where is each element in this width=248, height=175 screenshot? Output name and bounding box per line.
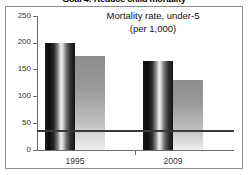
target-line (37, 130, 234, 132)
x-tick-label-2009: 2009 (143, 157, 203, 166)
x-tick-label-1995: 1995 (45, 157, 105, 166)
y-tick-label-0: 0 (7, 146, 31, 154)
y-tick-label-250: 250 (7, 12, 31, 20)
y-tick-label-50: 50 (7, 119, 31, 127)
chart-figure: Goal 4: Reduce child mortality Mortality… (0, 0, 248, 175)
y-tick-label-100: 100 (7, 92, 31, 100)
bar-2009-series1 (143, 61, 173, 150)
y-tick-label-200: 200 (7, 38, 31, 46)
bar-2009-series2 (173, 80, 203, 150)
y-tick-label-150: 150 (7, 65, 31, 73)
bar-1995-series1 (45, 43, 75, 150)
axis-area: 250 200 150 100 50 0 1995 2009 (0, 0, 248, 175)
x-tick-mark-middle (135, 151, 136, 155)
bar-1995-series2 (75, 56, 105, 150)
